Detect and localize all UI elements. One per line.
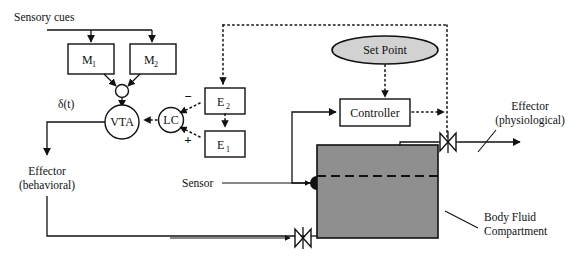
- body-fluid-label-1: Body Fluid: [484, 211, 536, 224]
- node-e2[interactable]: E 2: [205, 88, 245, 114]
- sensor-label: Sensor: [182, 177, 213, 189]
- node-controller[interactable]: Controller: [340, 99, 444, 126]
- compartment-rect: [317, 145, 438, 238]
- body-fluid-compartment: Body Fluid Compartment: [317, 145, 548, 238]
- plus-sign-label: +: [184, 132, 191, 147]
- node-m1[interactable]: M 1: [68, 44, 114, 74]
- effector-physiological-label-2: (physiological): [495, 114, 565, 127]
- valve-behavioral[interactable]: [295, 227, 311, 249]
- node-lc[interactable]: LC − +: [144, 89, 200, 147]
- body-fluid-label-2: Compartment: [484, 225, 548, 238]
- effector-behavioral-label-2: (behavioral): [19, 179, 75, 192]
- behavioral-inflow-group: [170, 227, 317, 249]
- effector-physiological-label-1: Effector: [511, 100, 549, 112]
- effector-behavioral-label-1: Effector: [28, 165, 66, 177]
- node-vta[interactable]: VTA: [105, 105, 139, 139]
- valve-physiological[interactable]: [440, 131, 456, 153]
- e1-sublabel: 1: [226, 145, 230, 154]
- body-fluid-leader-line: [445, 211, 478, 228]
- node-e1[interactable]: E 1: [205, 131, 245, 157]
- m2-to-sum-arrow: [128, 74, 140, 86]
- sensory-cues-label: Sensory cues: [14, 11, 75, 24]
- behavioral-effector-to-valve-line: [47, 196, 303, 236]
- m2-sublabel: 2: [154, 60, 158, 69]
- valve-behav-left-triangle[interactable]: [295, 229, 303, 247]
- valve-behav-right-triangle[interactable]: [303, 229, 311, 247]
- effector-phys-leader-line: [478, 130, 496, 152]
- m1-to-sum-arrow: [104, 74, 116, 86]
- diagram-svg: Sensory cues M 1 M 2 VTA: [0, 0, 581, 264]
- e2-sublabel: 2: [226, 102, 230, 111]
- controller-label: Controller: [350, 106, 399, 120]
- figure-canvas: Sensory cues M 1 M 2 VTA: [0, 0, 581, 264]
- node-m2[interactable]: M 2: [130, 44, 176, 74]
- minus-sign-label: −: [184, 89, 191, 104]
- lc-label: LC: [163, 113, 178, 127]
- sensory-cues-group: Sensory cues: [14, 11, 152, 42]
- e2-to-lc-arrow: [180, 103, 200, 113]
- e1-box[interactable]: [205, 131, 245, 157]
- e1-label: E: [217, 138, 224, 152]
- delta-t-label: δ(t): [58, 98, 74, 111]
- valve-phys-right-triangle[interactable]: [448, 133, 456, 151]
- node-set-point[interactable]: Set Point: [332, 36, 438, 97]
- e2-box[interactable]: [205, 88, 245, 114]
- e2-label: E: [217, 95, 224, 109]
- summing-junction: [104, 74, 140, 107]
- vta-label: VTA: [110, 115, 134, 129]
- vta-to-effector-arrow: [47, 122, 105, 155]
- set-point-label: Set Point: [363, 43, 407, 57]
- summing-circle: [116, 85, 129, 98]
- m1-sublabel: 1: [92, 60, 96, 69]
